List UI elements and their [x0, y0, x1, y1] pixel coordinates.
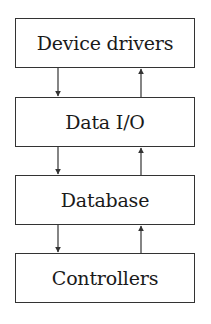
connection-arrows: [0, 0, 211, 324]
